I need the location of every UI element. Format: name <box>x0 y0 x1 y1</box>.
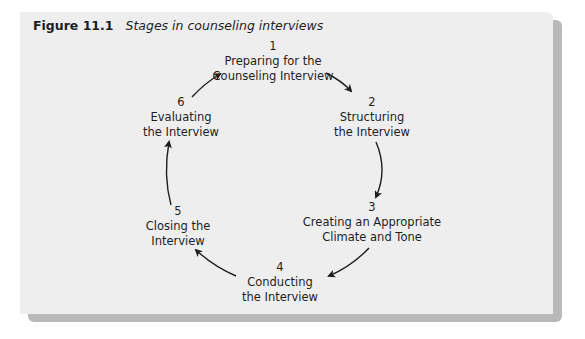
stage-5: 5 Closing the Interview <box>146 204 211 249</box>
stage-4: 4 Conducting the Interview <box>242 260 318 305</box>
arrow-5-to-6 <box>166 142 171 205</box>
arrow-3-to-4 <box>329 248 369 276</box>
arrow-2-to-3 <box>376 142 382 197</box>
stage-6: 6 Evaluating the Interview <box>143 95 219 140</box>
arrow-4-to-5 <box>196 250 236 276</box>
stage-2: 2 Structuring the Interview <box>334 95 410 140</box>
stage-3: 3 Creating an Appropriate Climate and To… <box>303 200 441 245</box>
stage-1: 1 Preparing for the Counseling Interview <box>213 39 334 84</box>
